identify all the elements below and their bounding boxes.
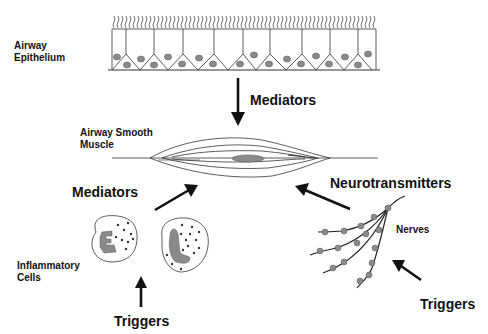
airway-epithelium-drawing [108,16,380,70]
mediators-top-label: Mediators [250,92,316,108]
smooth-muscle-line-2: Muscle [80,139,153,151]
inflammatory-cells-label: Inflammatory Cells [17,260,80,283]
triggers-right-label: Triggers [420,296,475,312]
inflammatory-cells-line-1: Inflammatory [17,260,80,272]
mediators-up-right-arrow [155,184,198,210]
nerves-drawing [310,196,405,288]
mediators-down-arrow [231,78,245,126]
smooth-muscle-line-1: Airway Smooth [80,127,153,139]
airway-epithelium-line-1: Airway [14,40,65,52]
triggers-up-left-arrow [392,260,421,280]
triggers-up-arrow [135,276,147,307]
mediators-left-label: Mediators [72,184,138,200]
nerves-label: Nerves [396,224,429,236]
inflammatory-cell-1 [92,216,137,262]
inflammatory-cells-line-2: Cells [17,272,80,284]
inflammatory-cell-2 [162,218,209,272]
muscle-nucleus [232,155,264,162]
triggers-bottom-label: Triggers [114,313,169,329]
epithelial-nuclei [113,51,371,68]
neurotransmitters-label: Neurotransmitters [330,175,451,191]
airway-smooth-muscle-label: Airway Smooth Muscle [80,127,153,150]
airway-epithelium-label: Airway Epithelium [14,40,65,63]
asthma-pathway-diagram [0,0,488,334]
airway-epithelium-line-2: Epithelium [14,52,65,64]
cilia [113,16,375,28]
